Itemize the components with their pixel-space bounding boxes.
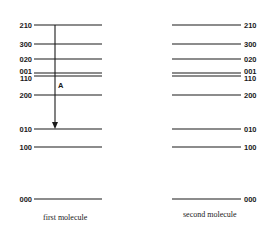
energy-level-diagram: 210300020001110200010100000 210300020001… xyxy=(0,0,275,236)
second-molecule-caption: second molecule xyxy=(183,210,237,219)
second-molecule-levels: 210300020001110200010100000 xyxy=(172,21,257,204)
energy-level-label: 200 xyxy=(244,91,257,100)
energy-level-label: 100 xyxy=(244,143,257,152)
energy-level-label: 000 xyxy=(244,195,257,204)
first-molecule-caption: first molecule xyxy=(43,213,88,222)
energy-level-label: 110 xyxy=(244,74,256,83)
transition-arrow: A xyxy=(52,25,64,129)
arrow-down-icon xyxy=(52,122,58,129)
energy-level-label: 020 xyxy=(244,55,257,64)
energy-level-label: 300 xyxy=(19,40,32,49)
energy-level-label: 200 xyxy=(19,91,32,100)
transition-label: A xyxy=(58,81,64,90)
energy-level-label: 100 xyxy=(19,143,32,152)
first-molecule-levels: 210300020001110200010100000 xyxy=(19,21,102,204)
energy-level-label: 300 xyxy=(244,40,257,49)
energy-level-label: 010 xyxy=(244,125,257,134)
energy-level-label: 110 xyxy=(20,74,32,83)
energy-level-label: 000 xyxy=(19,195,32,204)
energy-level-label: 210 xyxy=(19,21,32,30)
energy-level-label: 010 xyxy=(19,125,32,134)
energy-level-label: 020 xyxy=(19,55,32,64)
energy-level-label: 210 xyxy=(244,21,257,30)
